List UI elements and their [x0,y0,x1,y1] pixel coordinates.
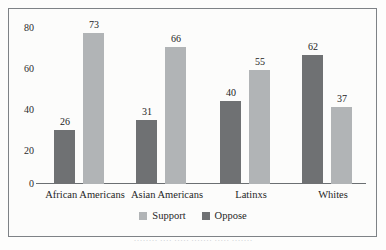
bar-value-latinxs-oppose: 40 [216,88,246,98]
legend-item-support[interactable]: Support [139,210,185,221]
legend-swatch-oppose-icon [202,212,210,220]
bar-value-asian-americans-support: 66 [161,34,191,44]
bar-group-asian-americans: 31 66 [136,18,198,184]
legend-label-oppose: Oppose [215,210,247,221]
x-label-african-americans: African Americans [45,188,125,201]
chart-legend: Support Oppose [0,210,386,221]
bar-value-asian-americans-oppose: 31 [132,107,162,117]
x-label-latinxs: Latinxs [235,188,267,201]
bar-asian-americans-support[interactable] [165,47,186,184]
legend-swatch-support-icon [139,212,147,220]
bar-value-african-americans-support: 73 [79,20,109,30]
y-tick-label-0: 0 [29,179,34,189]
bar-value-whites-support: 37 [327,94,357,104]
bar-value-whites-oppose: 62 [298,42,328,52]
bar-value-latinxs-support: 55 [245,57,275,67]
bar-latinxs-oppose[interactable] [220,101,241,184]
bar-african-americans-oppose[interactable] [54,130,75,184]
bar-chart-figure: 80 60 40 20 0 26 73 31 66 40 55 [0,0,386,250]
bar-latinxs-support[interactable] [249,70,270,184]
caption-text: ········ ···· ····· ······· ····· ······… [133,240,252,245]
bar-whites-support[interactable] [331,107,352,184]
x-label-asian-americans: Asian Americans [131,188,203,201]
x-axis-labels: African Americans Asian Americans Latinx… [36,188,366,204]
bar-group-latinxs: 40 55 [220,18,282,184]
caption-strip: ········ ···· ····· ······· ····· ······… [0,240,386,250]
y-tick-label-40: 40 [24,105,34,115]
bar-group-african-americans: 26 73 [54,18,116,184]
bar-asian-americans-oppose[interactable] [136,120,157,184]
legend-item-oppose[interactable]: Oppose [202,210,247,221]
bar-value-african-americans-oppose: 26 [50,117,80,127]
y-tick-label-80: 80 [24,23,34,33]
legend-label-support: Support [152,210,185,221]
bar-african-americans-support[interactable] [83,33,104,184]
x-label-whites: Whites [318,188,348,201]
y-tick-label-60: 60 [24,64,34,74]
bar-whites-oppose[interactable] [302,55,323,184]
plot-area: 26 73 31 66 40 55 62 37 [36,18,364,184]
bar-group-whites: 62 37 [302,18,364,184]
y-tick-label-20: 20 [24,146,34,156]
